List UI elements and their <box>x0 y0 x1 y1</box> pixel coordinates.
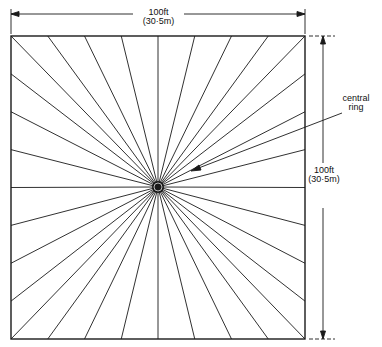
spoke-line <box>158 187 195 339</box>
leader-arrowhead-icon <box>191 165 201 171</box>
spoke-line <box>85 36 159 187</box>
arrowhead-right-icon <box>297 12 305 17</box>
width-dimension-label: 100ft (30·5m) <box>133 8 184 26</box>
spoke-line <box>158 112 305 187</box>
spoke-line <box>11 187 158 301</box>
width-dimension-m: (30·5m) <box>133 17 184 26</box>
spoke-line <box>158 187 305 339</box>
height-dimension-label: 100ft (30·5m) <box>302 166 346 184</box>
spoke-line <box>158 187 232 339</box>
spoke-line <box>158 36 268 187</box>
spoke-line <box>11 36 158 187</box>
central-ring-leader <box>191 113 342 171</box>
spoke-line <box>11 112 158 187</box>
spoke-line <box>11 187 158 225</box>
height-dimension-m: (30·5m) <box>302 175 346 184</box>
spoke-line <box>11 187 158 339</box>
spoke-line <box>158 74 305 187</box>
central-ring-label-line2: ring <box>334 103 378 112</box>
spoke-line <box>158 187 305 301</box>
spoke-line <box>158 36 195 187</box>
spoke-line <box>11 187 158 188</box>
spoke-line <box>48 187 158 339</box>
arrowhead-left-icon <box>11 12 19 17</box>
spoke-line <box>11 74 158 187</box>
spoke-line <box>158 187 305 263</box>
arrowhead-up-icon <box>321 36 326 44</box>
spoke-line <box>158 187 305 225</box>
spoke-line <box>158 36 305 187</box>
right-dimension <box>309 36 335 339</box>
spoke-line <box>11 187 158 263</box>
spoke-line <box>158 36 232 187</box>
spoke-line <box>85 187 159 339</box>
spoke-line <box>121 36 158 187</box>
spoke-line <box>11 150 158 187</box>
spoke-line <box>158 187 268 339</box>
spoke-line <box>121 187 158 339</box>
spoke-line <box>48 36 158 187</box>
central-ring-label: central ring <box>334 94 378 112</box>
arrowhead-down-icon <box>321 331 326 339</box>
spoke-line <box>158 187 305 188</box>
